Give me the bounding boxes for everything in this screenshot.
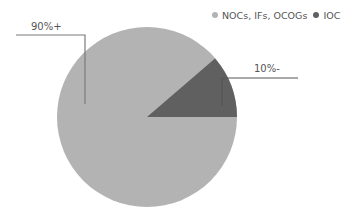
pie-chart: [0, 0, 354, 219]
slice-label-minor: 10%-: [254, 63, 280, 74]
slice-label-major: 90%+: [31, 21, 62, 32]
